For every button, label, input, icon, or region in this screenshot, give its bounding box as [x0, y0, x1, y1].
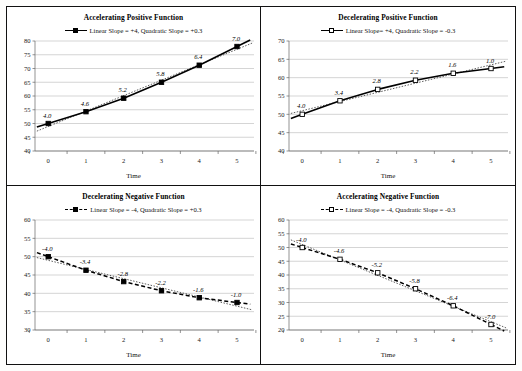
svg-text:-6.4: -6.4: [447, 293, 458, 300]
svg-text:-3.4: -3.4: [80, 258, 91, 265]
chart-panel-accelerating-negative: Accelerating Negative Function Linear Sl…: [261, 186, 515, 365]
svg-text:35: 35: [24, 308, 31, 315]
chart-panel-decelerating-positive: Decelerating Positive Function Linear Sl…: [261, 7, 515, 186]
svg-text:1: 1: [338, 157, 341, 164]
svg-text:45: 45: [278, 257, 285, 264]
svg-text:1.6: 1.6: [448, 61, 457, 68]
svg-text:3: 3: [414, 157, 418, 164]
chart-panel-grid: Accelerating Positive Function Linear Sl…: [6, 6, 516, 365]
svg-text:4: 4: [452, 157, 456, 164]
svg-text:40: 40: [24, 147, 31, 154]
svg-text:2: 2: [122, 157, 125, 164]
plot-area: 404550556065700123454.03.42.82.21.61.0: [261, 7, 515, 185]
svg-text:60: 60: [24, 216, 31, 223]
svg-text:5: 5: [235, 336, 239, 343]
svg-text:1: 1: [338, 336, 341, 343]
svg-text:50: 50: [278, 243, 285, 250]
x-axis-title: Time: [261, 172, 515, 180]
svg-text:65: 65: [278, 56, 285, 63]
x-axis-title: Time: [7, 351, 260, 359]
svg-text:0: 0: [301, 157, 305, 164]
plot-svg-0: 4045505560657075800123454.04.65.25.86.47…: [7, 7, 261, 186]
svg-text:3: 3: [160, 157, 164, 164]
svg-text:-5.2: -5.2: [372, 260, 383, 267]
svg-text:30: 30: [278, 298, 285, 305]
svg-text:2: 2: [122, 336, 125, 343]
svg-text:1: 1: [84, 157, 87, 164]
svg-text:45: 45: [24, 134, 31, 141]
svg-text:-4.0: -4.0: [42, 244, 53, 251]
svg-text:7.0: 7.0: [232, 35, 241, 42]
svg-text:4.6: 4.6: [81, 100, 90, 107]
svg-text:65: 65: [24, 79, 31, 86]
svg-text:-2.2: -2.2: [155, 278, 166, 285]
svg-text:55: 55: [24, 234, 31, 241]
plot-svg-3: 202530354045505560012345-4.0-4.6-5.2-5.8…: [261, 186, 515, 365]
svg-text:2.8: 2.8: [373, 77, 382, 84]
x-axis-title: Time: [7, 172, 260, 180]
svg-text:40: 40: [24, 289, 31, 296]
svg-text:50: 50: [24, 120, 31, 127]
svg-text:2: 2: [376, 336, 379, 343]
svg-text:5: 5: [489, 336, 493, 343]
svg-text:5.2: 5.2: [119, 86, 128, 93]
svg-text:2.2: 2.2: [410, 68, 419, 75]
svg-text:30: 30: [24, 326, 31, 333]
svg-text:5: 5: [235, 157, 239, 164]
svg-text:-1.6: -1.6: [193, 285, 204, 292]
svg-text:4.0: 4.0: [297, 102, 306, 109]
svg-text:4: 4: [198, 157, 202, 164]
svg-text:70: 70: [278, 37, 285, 44]
svg-text:-5.8: -5.8: [409, 276, 420, 283]
plot-area: 30354045505560012345-4.0-3.4-2.8-2.2-1.6…: [7, 186, 260, 365]
svg-text:60: 60: [278, 216, 285, 223]
svg-text:4: 4: [452, 336, 456, 343]
svg-text:4.0: 4.0: [43, 112, 52, 119]
svg-text:3: 3: [160, 336, 164, 343]
svg-text:55: 55: [278, 92, 285, 99]
plot-svg-2: 30354045505560012345-4.0-3.4-2.8-2.2-1.6…: [7, 186, 261, 365]
svg-text:35: 35: [278, 285, 285, 292]
plot-area: 202530354045505560012345-4.0-4.6-5.2-5.8…: [261, 186, 515, 365]
svg-text:60: 60: [24, 92, 31, 99]
svg-text:50: 50: [278, 111, 285, 118]
svg-text:-4.6: -4.6: [334, 247, 345, 254]
figure-canvas: Accelerating Positive Function Linear Sl…: [0, 0, 522, 371]
svg-text:-2.8: -2.8: [118, 269, 129, 276]
x-axis-title: Time: [261, 351, 515, 359]
svg-text:-7.0: -7.0: [485, 312, 496, 319]
svg-text:3.4: 3.4: [334, 89, 344, 96]
svg-text:45: 45: [24, 271, 31, 278]
chart-panel-accelerating-positive: Accelerating Positive Function Linear Sl…: [7, 7, 261, 186]
svg-text:6.4: 6.4: [194, 53, 203, 60]
svg-text:45: 45: [278, 129, 285, 136]
svg-text:40: 40: [278, 271, 285, 278]
svg-text:2: 2: [376, 157, 379, 164]
svg-text:40: 40: [278, 147, 285, 154]
svg-text:-1.0: -1.0: [231, 290, 242, 297]
svg-text:5.8: 5.8: [156, 70, 165, 77]
svg-text:55: 55: [278, 230, 285, 237]
chart-panel-decelerating-negative: Decelerating Negative Function Linear Sl…: [7, 186, 261, 365]
plot-area: 4045505560657075800123454.04.65.25.86.47…: [7, 7, 260, 185]
svg-text:1: 1: [84, 336, 87, 343]
plot-svg-1: 404550556065700123454.03.42.82.21.61.0: [261, 7, 515, 186]
svg-text:75: 75: [24, 51, 31, 58]
svg-text:1.0: 1.0: [486, 57, 495, 64]
svg-text:70: 70: [24, 65, 31, 72]
svg-text:80: 80: [24, 37, 31, 44]
svg-text:-4.0: -4.0: [296, 235, 307, 242]
svg-text:20: 20: [278, 326, 285, 333]
svg-text:60: 60: [278, 74, 285, 81]
svg-text:5: 5: [489, 157, 493, 164]
svg-text:0: 0: [47, 157, 51, 164]
svg-text:4: 4: [198, 336, 202, 343]
svg-text:55: 55: [24, 106, 31, 113]
svg-text:25: 25: [278, 312, 285, 319]
svg-text:0: 0: [301, 336, 305, 343]
svg-text:50: 50: [24, 253, 31, 260]
svg-text:3: 3: [414, 336, 418, 343]
svg-text:0: 0: [47, 336, 51, 343]
